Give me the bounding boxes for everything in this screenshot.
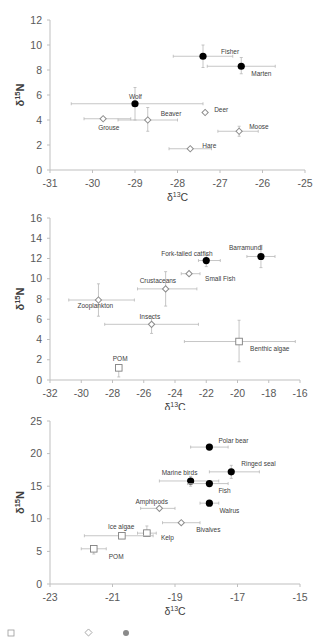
point-label: Beaver bbox=[161, 110, 182, 117]
y-tick-label: 6 bbox=[36, 89, 42, 101]
data-point-small-fish: Small Fish bbox=[181, 271, 236, 282]
data-point-hare: Hare bbox=[169, 142, 217, 152]
data-point-amphipods: Amphipods bbox=[135, 498, 175, 511]
point-label: Walrus bbox=[219, 507, 240, 514]
legend-swatch-square-icon bbox=[8, 630, 14, 636]
point-label: Fork-tailed catfish bbox=[161, 250, 213, 257]
square-marker-icon bbox=[236, 338, 243, 345]
filled-circle-marker-icon bbox=[203, 257, 210, 264]
diamond-marker-icon bbox=[202, 109, 208, 115]
filled-circle-marker-icon bbox=[257, 253, 264, 260]
diamond-marker-icon bbox=[156, 505, 162, 511]
y-tick-label: 25 bbox=[30, 415, 42, 427]
point-label: Bivalves bbox=[196, 526, 221, 533]
legend-swatch-diamond-icon bbox=[85, 629, 92, 636]
data-point-crustaceans: Crustaceans bbox=[138, 272, 197, 306]
y-tick-label: 0 bbox=[36, 374, 42, 386]
x-tick-label: -28 bbox=[170, 177, 185, 189]
y-tick-label: 16 bbox=[30, 212, 42, 224]
point-label: Crustaceans bbox=[140, 277, 177, 284]
data-point-walrus: Walrus bbox=[200, 500, 240, 515]
diamond-marker-icon bbox=[145, 117, 151, 123]
point-label: Hare bbox=[202, 142, 216, 149]
x-axis-title: δ13C bbox=[164, 401, 186, 410]
chart-arctic-marine-food-web: 0510152025-23-21-19-17-15δ13Cδ15NPolar b… bbox=[0, 410, 324, 637]
diamond-marker-icon bbox=[163, 286, 169, 292]
y-axis-title: δ15N bbox=[13, 83, 26, 106]
diamond-marker-icon bbox=[148, 321, 154, 327]
diamond-marker-icon bbox=[187, 146, 193, 152]
point-label: Fish bbox=[218, 487, 231, 494]
filled-circle-marker-icon bbox=[206, 480, 213, 487]
x-tick-label: -21 bbox=[105, 591, 120, 603]
y-tick-label: 10 bbox=[30, 39, 42, 51]
data-point-wolf: Wolf bbox=[71, 88, 203, 121]
data-point-polar-bear: Polar bear bbox=[191, 437, 250, 451]
y-tick-label: 0 bbox=[36, 578, 42, 590]
x-tick-label: -18 bbox=[261, 387, 276, 399]
x-tick-label: -23 bbox=[42, 591, 57, 603]
data-point-marten: Marten bbox=[207, 58, 275, 78]
x-tick-label: -24 bbox=[167, 387, 182, 399]
filled-circle-marker-icon bbox=[206, 500, 213, 507]
point-label: Grouse bbox=[98, 124, 120, 131]
y-tick-label: 4 bbox=[36, 333, 42, 345]
point-label: Marten bbox=[251, 70, 272, 77]
x-tick-label: -15 bbox=[292, 591, 307, 603]
data-point-grouse: Grouse bbox=[84, 116, 131, 131]
y-tick-label: 2 bbox=[36, 139, 42, 151]
data-point-pom: POM bbox=[81, 545, 123, 559]
data-point-benthic-algae: Benthic algae bbox=[184, 320, 295, 362]
filled-circle-marker-icon bbox=[228, 468, 235, 475]
y-tick-label: 0 bbox=[36, 164, 42, 176]
point-label: Moose bbox=[249, 123, 269, 130]
point-label: Amphipods bbox=[135, 498, 168, 506]
point-label: Deer bbox=[214, 106, 229, 113]
y-tick-label: 12 bbox=[30, 252, 42, 264]
y-axis-title: δ15N bbox=[13, 491, 26, 514]
x-tick-label: -25 bbox=[297, 177, 312, 189]
filled-circle-marker-icon bbox=[206, 443, 213, 450]
point-label: POM bbox=[109, 553, 124, 560]
x-tick-label: -27 bbox=[212, 177, 227, 189]
y-tick-label: 10 bbox=[30, 512, 42, 524]
data-point-insects: Insects bbox=[105, 313, 199, 333]
data-point-bivalves: Bivalves bbox=[163, 520, 222, 533]
y-axis-title: δ15N bbox=[13, 287, 26, 310]
data-point-kelp: Kelp bbox=[138, 526, 175, 542]
data-point-beaver: Beaver bbox=[118, 108, 182, 132]
x-tick-label: -22 bbox=[199, 387, 214, 399]
x-axis-title: δ13C bbox=[164, 605, 186, 617]
legend-swatch-filled-icon bbox=[123, 630, 129, 636]
point-label: Small Fish bbox=[205, 275, 236, 282]
x-tick-label: -17 bbox=[230, 591, 245, 603]
x-tick-label: -30 bbox=[74, 387, 89, 399]
point-label: Barramundi bbox=[229, 244, 263, 251]
x-tick-label: -26 bbox=[255, 177, 270, 189]
y-tick-label: 10 bbox=[30, 272, 42, 284]
data-point-fork-tailed-catfish: Fork-tailed catfish bbox=[161, 250, 220, 267]
point-label: Marine birds bbox=[162, 469, 199, 476]
y-tick-label: 6 bbox=[36, 313, 42, 325]
y-tick-label: 8 bbox=[36, 64, 42, 76]
x-axis-title: δ13C bbox=[167, 191, 189, 203]
filled-circle-marker-icon bbox=[238, 63, 245, 70]
point-label: POM bbox=[113, 355, 128, 362]
y-tick-label: 5 bbox=[36, 545, 42, 557]
y-tick-label: 4 bbox=[36, 114, 42, 126]
data-point-deer: Deer bbox=[202, 106, 229, 116]
chart-terrestrial-food-web: 024681012-31-30-29-28-27-26-25δ13Cδ15NFi… bbox=[0, 0, 324, 205]
y-tick-label: 14 bbox=[30, 232, 42, 244]
x-tick-label: -29 bbox=[127, 177, 142, 189]
filled-circle-marker-icon bbox=[199, 53, 206, 60]
data-point-zooplankton: Zooplankton bbox=[69, 284, 135, 316]
y-tick-label: 12 bbox=[30, 14, 42, 26]
square-marker-icon bbox=[119, 532, 126, 539]
y-tick-label: 20 bbox=[30, 447, 42, 459]
legend-strip-cutoff bbox=[0, 626, 324, 637]
x-tick-label: -26 bbox=[136, 387, 151, 399]
data-point-barramundi: Barramundi bbox=[229, 244, 275, 267]
x-tick-label: -28 bbox=[105, 387, 120, 399]
chart-freshwater-food-web: 0246810121416-32-30-28-26-24-22-20-18-16… bbox=[0, 205, 324, 410]
point-label: Polar bear bbox=[218, 437, 249, 444]
